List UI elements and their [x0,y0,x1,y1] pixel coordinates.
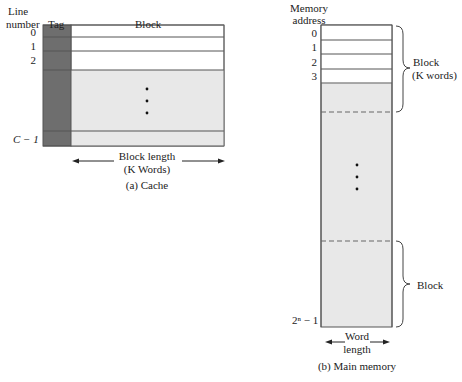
diagram-graphics [0,0,462,382]
main-memory-caption: (b) Main memory [307,360,407,372]
brace-top-label-1: Block [413,56,439,68]
block-length-sublabel: (K Words) [108,163,186,175]
ellipsis-dot [146,112,149,115]
address-label-1: 1 [297,41,317,53]
block-length-label: Block length [108,150,186,162]
line-number-header-1: Line [8,5,28,17]
memory-address-header-2: address [274,14,344,26]
line-label-0: 0 [16,26,36,38]
address-label-3: 3 [297,70,317,82]
memory-address-header-1: Memory [274,2,344,14]
tag-header: Tag [48,18,64,30]
block-header: Block [135,18,161,30]
word-length-label: Word [337,330,377,342]
address-label-0: 0 [297,27,317,39]
ellipsis-dot [146,100,149,103]
word-length-sublabel: length [337,343,377,355]
cache-caption: (a) Cache [108,179,186,191]
brace-bottom [396,241,410,327]
line-label-1: 1 [16,40,36,52]
address-label-2: 2 [297,56,317,68]
ellipsis-dot [146,88,149,91]
address-label-last: 2ⁿ − 1 [292,314,318,326]
line-label-2: 2 [16,54,36,66]
brace-top [396,26,410,112]
brace-bottom-label: Block [417,279,443,291]
line-label-c-minus-1: C − 1 [13,133,39,145]
cache-tag-column [43,25,71,146]
brace-top-label-2: (K words) [412,69,457,81]
